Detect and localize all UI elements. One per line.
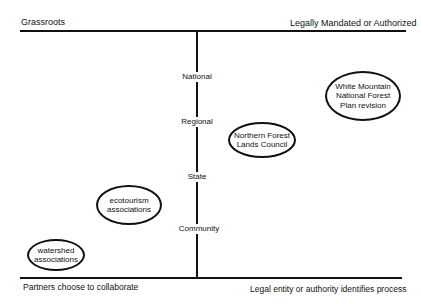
- node-watershed: watershed associations: [27, 239, 85, 271]
- level-national: National: [182, 72, 211, 82]
- node-text-line: associations: [34, 255, 78, 264]
- bottom-axis-line: [20, 277, 402, 279]
- top-right-label: Legally Mandated or Authorized: [290, 19, 417, 28]
- node-text-line: White Mountain: [335, 82, 391, 91]
- top-left-label: Grassroots: [21, 18, 65, 27]
- node-text-line: associations: [107, 205, 151, 214]
- node-text-line: Plan revision: [335, 101, 391, 110]
- node-northern-forest: Northern Forest Lands Council: [228, 122, 296, 158]
- node-text-line: National Forest: [335, 91, 391, 100]
- node-ecotourism: ecotourism associations: [96, 185, 162, 225]
- bottom-left-label: Partners choose to collaborate: [23, 283, 138, 292]
- node-white-mountain: White Mountain National Forest Plan revi…: [325, 71, 401, 121]
- level-community: Community: [179, 224, 219, 234]
- bottom-right-label: Legal entity or authority identifies pro…: [250, 285, 406, 294]
- node-text-line: ecotourism: [107, 196, 151, 205]
- top-axis-line: [20, 30, 406, 32]
- level-regional: Regional: [181, 117, 213, 127]
- vertical-axis-line: [196, 31, 198, 279]
- node-text-line: watershed: [34, 246, 78, 255]
- level-state: State: [188, 172, 207, 182]
- node-text-line: Northern Forest: [234, 131, 290, 140]
- node-text-line: Lands Council: [234, 140, 290, 149]
